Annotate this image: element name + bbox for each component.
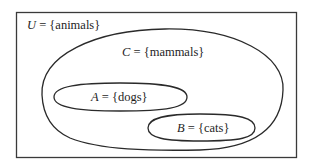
set-c-equals: = bbox=[130, 45, 143, 59]
universe-equals: = bbox=[36, 18, 49, 32]
set-a-equals: = bbox=[99, 90, 112, 104]
set-b-symbol: B bbox=[177, 121, 185, 135]
universe-symbol: U bbox=[27, 18, 36, 32]
set-b-set: {cats} bbox=[198, 121, 229, 135]
set-a-label: A = {dogs} bbox=[91, 91, 148, 104]
set-a-set: {dogs} bbox=[112, 90, 148, 104]
set-c-set: {mammals} bbox=[144, 45, 205, 59]
set-b-label: B = {cats} bbox=[177, 122, 229, 135]
set-b-equals: = bbox=[185, 121, 198, 135]
universe-label: U = {animals} bbox=[27, 19, 100, 32]
set-c-label: C = {mammals} bbox=[122, 46, 204, 59]
set-a-symbol: A bbox=[91, 90, 99, 104]
universe-set: {animals} bbox=[49, 18, 100, 32]
